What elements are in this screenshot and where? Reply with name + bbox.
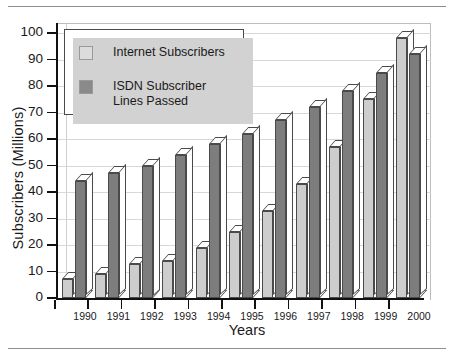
bar-front-face <box>175 155 186 298</box>
bar-2000-isdn <box>409 54 420 298</box>
y-axis-tick-label: 70 <box>3 107 43 117</box>
y-axis-tick <box>47 138 56 140</box>
bar-front-face <box>342 91 353 298</box>
bar-front-face <box>196 248 207 298</box>
legend-label-isdn: ISDN Subscriber Lines Passed <box>113 79 206 109</box>
bar-side-face <box>220 135 227 295</box>
bar-1995-isdn <box>242 134 253 298</box>
bar-side-face <box>320 98 327 295</box>
bar-front-face <box>62 279 73 298</box>
bar-front-face <box>142 166 153 299</box>
x-axis-tick-label: 2000 <box>397 310 441 322</box>
y-axis-title: Subscribers (Millions) <box>10 63 26 293</box>
bar-front-face <box>75 181 86 298</box>
bar-2000-internet <box>396 38 407 298</box>
bar-front-face <box>409 54 420 298</box>
x-axis-tick <box>221 300 223 309</box>
y-axis-tick <box>47 218 56 220</box>
bar-front-face <box>376 73 387 298</box>
bar-side-face <box>253 124 260 295</box>
bar-1999-internet <box>363 99 374 298</box>
bar-side-face <box>353 82 360 295</box>
bar-1991-isdn <box>108 173 119 298</box>
bar-1997-isdn <box>309 107 320 298</box>
y-axis-tick-label: 90 <box>3 54 43 64</box>
bar-side-face <box>86 172 93 295</box>
y-axis-tick <box>47 112 56 114</box>
y-axis-tick <box>47 59 56 61</box>
x-axis-tick <box>321 300 323 309</box>
bar-side-face <box>420 45 427 295</box>
bar-1995-internet <box>229 232 240 298</box>
y-axis-tick <box>47 244 56 246</box>
y-axis-tick <box>47 85 56 87</box>
bar-1990-isdn <box>75 181 86 298</box>
bar-side-face <box>387 63 394 295</box>
x-axis-tick <box>388 300 390 309</box>
bar-1994-internet <box>196 248 207 298</box>
y-axis-tick-label: 30 <box>3 213 43 223</box>
legend-swatch-internet-icon <box>79 46 93 60</box>
bar-front-face <box>229 232 240 298</box>
bar-front-face <box>129 264 140 298</box>
legend-label-internet: Internet Subscribers <box>113 45 225 60</box>
bar-front-face <box>329 147 340 298</box>
x-axis-tick <box>54 300 56 309</box>
y-axis-tick-label: 10 <box>3 266 43 276</box>
bar-side-face <box>119 164 126 295</box>
y-axis-tick <box>47 32 56 34</box>
y-axis-tick <box>47 191 56 193</box>
bar-1999-isdn <box>376 73 387 298</box>
bar-front-face <box>162 261 173 298</box>
y-axis-tick-label: 0 <box>3 292 43 302</box>
y-axis-tick-label: 50 <box>3 160 43 170</box>
x-axis-line <box>56 298 424 300</box>
bar-1998-internet <box>329 147 340 298</box>
bar-side-face <box>153 156 160 295</box>
bar-1992-isdn <box>142 166 153 299</box>
y-axis-tick-label: 60 <box>3 133 43 143</box>
bar-front-face <box>108 173 119 298</box>
top-divider-rule <box>8 6 446 7</box>
bar-1997-internet <box>296 184 307 298</box>
bar-1993-internet <box>162 261 173 298</box>
bar-1990-internet <box>62 279 73 298</box>
bar-side-face <box>286 111 293 295</box>
x-axis-tick <box>154 300 156 309</box>
bar-1991-internet <box>95 274 106 298</box>
x-axis-tick <box>355 300 357 309</box>
y-axis-tick <box>47 297 56 299</box>
bar-1994-isdn <box>209 144 220 298</box>
legend-swatch-isdn-icon <box>79 80 93 94</box>
x-axis-tick <box>288 300 290 309</box>
bar-1996-internet <box>262 211 273 298</box>
bar-front-face <box>363 99 374 298</box>
y-axis-tick-label: 100 <box>3 27 43 37</box>
legend-item-isdn-subscriber-lines-passed: ISDN Subscriber Lines Passed <box>79 79 206 109</box>
chart-legend: Internet Subscribers ISDN Subscriber Lin… <box>64 29 244 115</box>
x-axis-tick <box>188 300 190 309</box>
x-axis-tick <box>87 300 89 309</box>
bar-1992-internet <box>129 264 140 298</box>
x-axis-title: Years <box>0 322 454 338</box>
bar-front-face <box>209 144 220 298</box>
bar-front-face <box>396 38 407 298</box>
x-axis-tick <box>121 300 123 309</box>
bar-side-face <box>186 146 193 295</box>
bar-front-face <box>262 211 273 298</box>
legend-item-internet-subscribers: Internet Subscribers <box>79 45 225 60</box>
bar-1993-isdn <box>175 155 186 298</box>
bar-front-face <box>242 134 253 298</box>
bar-front-face <box>95 274 106 298</box>
bar-front-face <box>296 184 307 298</box>
y-axis-tick-label: 20 <box>3 239 43 249</box>
bar-1996-isdn <box>275 120 286 298</box>
bar-chart-figure: Subscribers (Millions) 01020304050607080… <box>0 10 454 345</box>
bottom-divider-rule <box>8 348 446 349</box>
bar-1998-isdn <box>342 91 353 298</box>
x-axis-tick <box>254 300 256 309</box>
y-axis-tick <box>47 271 56 273</box>
bar-front-face <box>309 107 320 298</box>
y-axis-tick <box>47 165 56 167</box>
y-axis-tick-label: 80 <box>3 80 43 90</box>
